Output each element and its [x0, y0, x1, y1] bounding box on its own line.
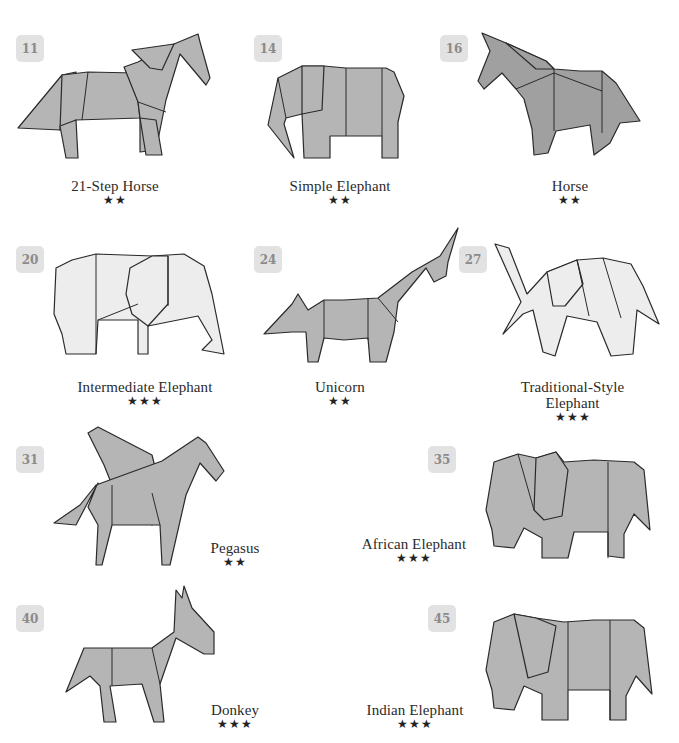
difficulty-stars: ★★★	[205, 718, 265, 731]
origami-elephant-icon	[493, 244, 673, 364]
origami-horse-icon	[476, 33, 676, 163]
difficulty-stars: ★★	[265, 194, 415, 207]
difficulty-stars: ★★★	[354, 552, 474, 565]
page-number-badge: 14	[254, 35, 282, 62]
origami-unicorn-icon	[262, 228, 462, 363]
difficulty-stars: ★★★	[500, 411, 645, 424]
origami-donkey-icon	[64, 582, 224, 732]
origami-horse-icon	[16, 30, 216, 165]
page-number-badge: 40	[16, 605, 44, 632]
origami-elephant-icon	[52, 254, 232, 364]
model-name: Horse	[520, 178, 620, 194]
difficulty-stars: ★★★	[355, 718, 475, 731]
page-number-badge: 27	[459, 246, 487, 273]
model-name: Pegasus	[205, 540, 265, 556]
model-name: Unicorn	[290, 379, 390, 395]
model-name: Donkey	[205, 702, 265, 718]
page-number-badge: 45	[428, 605, 456, 632]
page-number-badge: 35	[428, 446, 456, 473]
model-name: African Elephant	[354, 536, 474, 552]
difficulty-stars: ★★	[520, 194, 620, 207]
difficulty-stars: ★★★	[55, 395, 235, 408]
page-number-badge: 16	[440, 35, 468, 62]
model-name-line-2: Elephant	[500, 395, 645, 411]
difficulty-stars: ★★	[40, 194, 190, 207]
page-number-badge: 20	[16, 246, 44, 273]
origami-elephant-icon	[484, 450, 664, 565]
origami-elephant-icon	[266, 62, 416, 162]
origami-elephant-icon	[484, 612, 664, 727]
model-name: Indian Elephant	[355, 702, 475, 718]
model-name: Simple Elephant	[265, 178, 415, 194]
difficulty-stars: ★★	[205, 556, 265, 569]
difficulty-stars: ★★	[290, 395, 390, 408]
model-name: 21-Step Horse	[40, 178, 190, 194]
model-name: Intermediate Elephant	[55, 379, 235, 395]
model-name-line-1: Traditional-Style	[500, 379, 645, 395]
page-number-badge: 31	[16, 446, 44, 473]
